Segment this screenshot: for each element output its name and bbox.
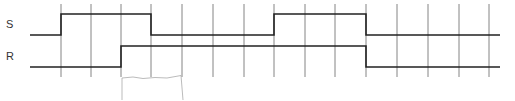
hand-drawn-annotation: [122, 76, 183, 101]
signal-trace-s: [30, 14, 500, 35]
signal-traces: [30, 14, 500, 67]
grid-lines: [61, 4, 489, 77]
signal-label-s: S: [6, 18, 13, 30]
sketch-box: [122, 76, 183, 101]
timing-diagram: [0, 0, 515, 100]
signal-label-r: R: [6, 50, 14, 62]
signal-trace-r: [30, 46, 500, 67]
